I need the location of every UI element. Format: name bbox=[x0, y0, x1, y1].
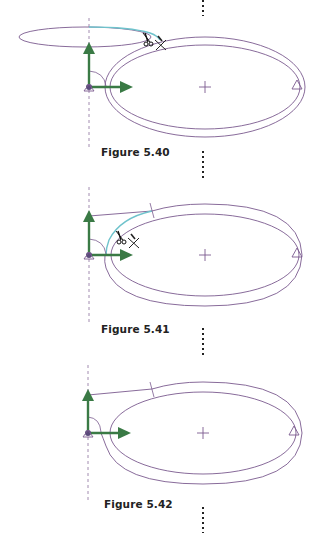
figure-5-41-drawing bbox=[83, 187, 302, 323]
center-mark bbox=[199, 249, 211, 261]
center-mark bbox=[197, 427, 209, 439]
x-arrow-icon bbox=[120, 249, 133, 261]
left-ellipse bbox=[19, 27, 151, 47]
axis-triad[interactable] bbox=[83, 42, 133, 93]
constraint-triangle bbox=[289, 426, 299, 435]
axis-triad[interactable] bbox=[83, 210, 133, 261]
constraint-triangle bbox=[292, 80, 302, 89]
highlighted-arc bbox=[89, 27, 160, 40]
axis-triad[interactable] bbox=[82, 389, 131, 439]
sketch-canvas bbox=[0, 0, 319, 533]
highlighted-arc bbox=[106, 211, 152, 255]
figure-5-42-drawing bbox=[82, 365, 302, 502]
figure-caption-5-42: Figure 5.42 bbox=[104, 498, 173, 510]
scissors-cursor-icon bbox=[143, 33, 153, 46]
y-arrow-icon bbox=[83, 42, 95, 54]
figure-caption-5-41: Figure 5.41 bbox=[101, 323, 170, 335]
figure-caption-5-40: Figure 5.40 bbox=[101, 146, 170, 158]
trim-x-icon bbox=[128, 234, 139, 248]
center-mark bbox=[199, 81, 211, 93]
angle-arc bbox=[89, 239, 106, 254]
x-arrow-icon bbox=[120, 81, 133, 93]
scissors-cursor-icon bbox=[116, 231, 126, 244]
x-arrow-icon bbox=[118, 427, 131, 439]
constraint-triangle bbox=[292, 248, 302, 257]
figure-5-40-drawing bbox=[19, 18, 305, 148]
angle-arc bbox=[89, 71, 106, 86]
angle-arc bbox=[88, 417, 101, 432]
top-line bbox=[88, 389, 152, 395]
